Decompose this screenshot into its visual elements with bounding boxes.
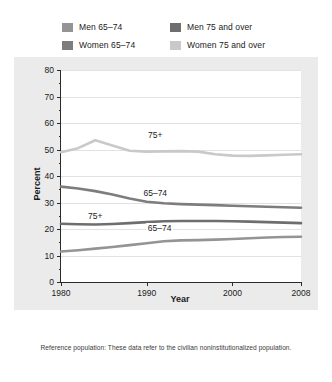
footnote-text: Reference population: These data refer t…	[14, 344, 318, 351]
y-tick-label: 10	[45, 251, 54, 261]
series-lines	[61, 70, 301, 282]
y-tick-label: 20	[45, 224, 54, 234]
legend-label-men-75-over: Men 75 and over	[187, 22, 252, 32]
legend-swatch-men-65-74	[62, 23, 73, 32]
y-tick-label: 70	[45, 92, 54, 102]
x-tick-mark	[232, 282, 233, 286]
y-tick-label: 0	[49, 277, 54, 287]
legend-swatch-women-65-74	[62, 41, 73, 50]
y-tick-label: 50	[45, 145, 54, 155]
legend-label-men-65-74: Men 65–74	[79, 22, 122, 32]
figure-container: Men 65–74 Men 75 and over Women 65–74 Wo…	[0, 0, 332, 382]
chart-legend: Men 65–74 Men 75 and over Women 65–74 Wo…	[62, 18, 310, 54]
x-tick-mark	[301, 282, 302, 286]
inline-series-label: 75+	[146, 130, 164, 140]
inline-series-label: 65–74	[141, 188, 169, 198]
plot-area: 01020304050607080 1980199020002008 75+65…	[60, 70, 301, 283]
y-tick-label: 60	[45, 118, 54, 128]
legend-item-women-65-74: Women 65–74	[62, 40, 170, 50]
x-axis-title: Year	[60, 294, 300, 304]
x-tick-mark	[61, 282, 62, 286]
legend-item-women-75-over: Women 75 and over	[170, 40, 310, 50]
plot-panel: Percent 01020304050607080 19801990200020…	[14, 57, 318, 310]
y-axis-title: Percent	[32, 167, 42, 200]
series-line	[61, 187, 301, 208]
series-line	[61, 237, 301, 252]
legend-item-men-65-74: Men 65–74	[62, 22, 170, 32]
y-tick-label: 80	[45, 65, 54, 75]
series-line	[61, 221, 301, 224]
inline-series-label: 65–74	[146, 223, 174, 233]
y-tick-label: 40	[45, 171, 54, 181]
y-tick-label: 30	[45, 198, 54, 208]
legend-label-women-75-over: Women 75 and over	[187, 40, 265, 50]
inline-series-label: 75+	[86, 211, 104, 221]
legend-item-men-75-over: Men 75 and over	[170, 22, 310, 32]
x-tick-mark	[147, 282, 148, 286]
series-line	[61, 140, 301, 156]
legend-swatch-women-75-over	[170, 41, 181, 50]
legend-swatch-men-75-over	[170, 23, 181, 32]
legend-label-women-65-74: Women 65–74	[79, 40, 135, 50]
